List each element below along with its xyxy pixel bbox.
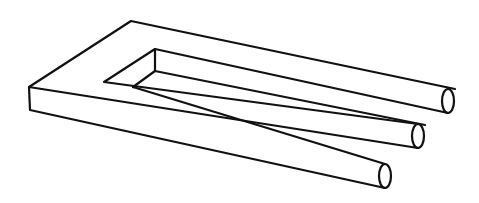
block-outline	[29, 21, 455, 188]
prong-end-bottom	[379, 164, 391, 188]
prong-end-top	[442, 89, 454, 113]
prong-end-middle	[412, 124, 424, 148]
impossible-trident-figure	[0, 0, 479, 203]
trident-drawing	[0, 0, 479, 203]
